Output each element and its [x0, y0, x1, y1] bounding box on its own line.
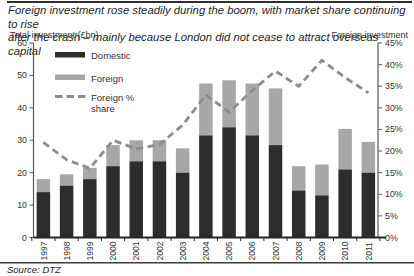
x-axis-label-2008: 2008 — [294, 241, 304, 260]
x-axis-label-1999: 1999 — [85, 241, 95, 260]
right-axis-tick-label: 20% — [385, 146, 403, 156]
bar-domestic-2000 — [106, 166, 120, 237]
right-axis-tick-label: 45% — [385, 38, 403, 48]
x-axis-label-2005: 2005 — [224, 241, 234, 260]
x-axis-label-2009: 2009 — [317, 241, 327, 260]
legend-label: Foreign — [91, 73, 123, 84]
left-axis-tick-label: 30 — [17, 135, 27, 145]
right-axis-tick-label: 30% — [385, 103, 403, 113]
bar-foreign-2000 — [106, 145, 120, 166]
bar-domestic-2007 — [269, 145, 283, 237]
x-axis-label-2004: 2004 — [201, 241, 211, 260]
bar-foreign-2005 — [222, 80, 236, 127]
bar-foreign-1999 — [83, 168, 97, 179]
x-axis-label-2007: 2007 — [271, 241, 281, 260]
x-axis-label-2010: 2010 — [340, 241, 350, 260]
legend-label: share — [91, 103, 115, 114]
left-axis-tick-label: 0 — [22, 233, 27, 243]
left-axis-tick-label: 10 — [17, 200, 27, 210]
source-text: Source: DTZ — [7, 264, 61, 275]
bar-domestic-2004 — [199, 135, 213, 237]
bar-domestic-2001 — [129, 161, 143, 237]
bar-domestic-2002 — [153, 161, 167, 237]
x-axis-label-2001: 2001 — [131, 241, 141, 260]
right-axis-tick-label: 10% — [385, 189, 403, 199]
left-axis-tick-label: 50 — [17, 70, 27, 80]
right-axis-tick-label: 35% — [385, 81, 403, 91]
bar-domestic-2006 — [246, 135, 259, 237]
bar-domestic-1998 — [60, 186, 74, 238]
x-axis-label-2011: 2011 — [364, 242, 374, 261]
bar-foreign-2009 — [315, 165, 329, 196]
legend-swatch-0 — [55, 52, 85, 58]
bar-foreign-2010 — [338, 129, 352, 170]
right-axis-tick-label: 25% — [385, 124, 403, 134]
x-axis-label-2000: 2000 — [108, 241, 118, 260]
bar-domestic-2008 — [292, 190, 306, 237]
source-rule — [0, 262, 414, 264]
legend-label: Domestic — [91, 50, 131, 61]
right-axis-tick-label: 0% — [385, 233, 398, 243]
bar-foreign-1998 — [60, 174, 74, 185]
right-axis-tick-label: 5% — [385, 211, 398, 221]
bar-foreign-2004 — [199, 84, 213, 136]
left-axis-tick-label: 20 — [17, 168, 27, 178]
bar-domestic-1997 — [37, 192, 51, 237]
bar-domestic-2003 — [176, 173, 190, 238]
x-axis-label-2002: 2002 — [155, 241, 165, 260]
bar-domestic-2011 — [362, 173, 376, 238]
x-axis-label-2003: 2003 — [178, 241, 188, 260]
bar-domestic-2009 — [315, 195, 329, 237]
legend-swatch-1 — [55, 75, 85, 81]
legend-label: Foreign % — [91, 92, 135, 103]
left-axis-tick-label: 40 — [17, 103, 27, 113]
chart-figure: Foreign investment rose steadily during … — [0, 0, 414, 276]
bar-foreign-2011 — [362, 142, 376, 173]
bar-domestic-2005 — [222, 127, 236, 237]
bar-foreign-2001 — [129, 140, 143, 161]
bar-foreign-1997 — [37, 179, 51, 192]
x-axis-label-1997: 1997 — [39, 241, 49, 260]
bar-domestic-2010 — [338, 169, 352, 237]
bar-foreign-2008 — [292, 166, 306, 190]
x-axis-label-1998: 1998 — [62, 241, 72, 260]
bar-domestic-1999 — [83, 179, 97, 237]
bar-foreign-2007 — [269, 88, 283, 145]
chart-canvas: 01020304050600%5%10%15%20%25%30%35%40%45… — [0, 0, 414, 276]
right-axis-tick-label: 15% — [385, 168, 403, 178]
left-axis-tick-label: 60 — [17, 38, 27, 48]
right-axis-tick-label: 40% — [385, 60, 403, 70]
bar-foreign-2003 — [176, 148, 190, 172]
x-axis-label-2006: 2006 — [247, 241, 257, 260]
